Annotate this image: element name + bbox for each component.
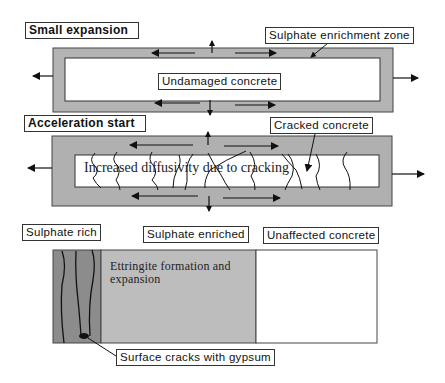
diagram-canvas [0, 0, 445, 383]
gypsum-deposit [79, 333, 89, 339]
sulphate-enrichment-zone-label: Sulphate enrichment zone [265, 27, 414, 44]
ettringite-text-line2: expansion [110, 273, 231, 286]
cracked-concrete-label: Cracked concrete [270, 117, 373, 134]
unaffected-concrete-label: Unaffected concrete [263, 227, 379, 244]
stage1-title: Small expansion [25, 22, 139, 39]
stage2-title: Acceleration start [24, 115, 146, 132]
surface-cracks-callout: Surface cracks with gypsum [116, 349, 275, 366]
sulphate-rich-label: Sulphate rich [22, 224, 101, 241]
unaffected-zone [256, 250, 377, 343]
ettringite-text: Ettringite formation and expansion [110, 260, 231, 286]
undamaged-concrete-label: Undamaged concrete [158, 73, 281, 90]
sulphate-enriched-label: Sulphate enriched [143, 226, 249, 243]
increased-diffusivity-text: Increased diffusivity due to cracking [84, 160, 289, 176]
